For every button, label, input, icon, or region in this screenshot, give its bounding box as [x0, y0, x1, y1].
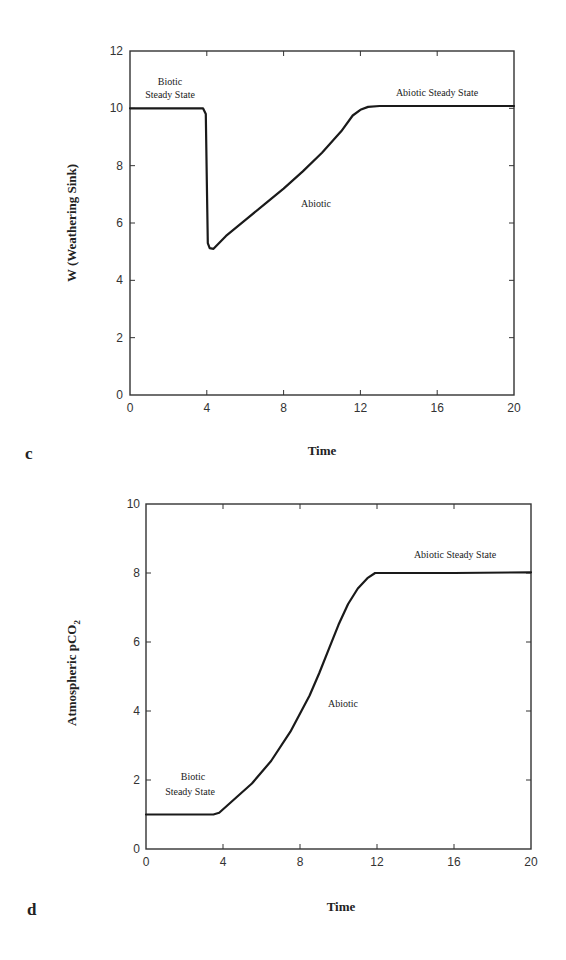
y-tick-label: 4 [116, 273, 123, 287]
y-tick-label: 8 [116, 159, 123, 173]
annotation-abiotic-steady-state: Abiotic Steady State [396, 87, 479, 98]
x-tick-label: 4 [220, 855, 227, 869]
annotation-abiotic: Abiotic [301, 198, 332, 209]
y-axis-title-subscript: 2 [72, 620, 82, 625]
chart-c-svg: 0 4 8 12 16 20 0 2 4 6 8 10 12 Biotic St… [0, 0, 566, 480]
y-tick-label: 4 [133, 704, 140, 718]
annotation-steady-state: Steady State [145, 89, 195, 100]
x-tick-label: 12 [354, 401, 368, 415]
chart-d-svg: 0 4 8 12 16 20 0 2 4 6 8 10 Biotic Stead… [0, 480, 566, 960]
y-tick-label: 0 [116, 388, 123, 402]
panel-c-weathering-sink: 0 4 8 12 16 20 0 2 4 6 8 10 12 Biotic St… [0, 0, 566, 480]
annotation-biotic: Biotic [181, 771, 206, 782]
chart-c-x-tick-labels: 0 4 8 12 16 20 [127, 401, 521, 415]
y-tick-label: 0 [133, 842, 140, 856]
y-tick-label: 8 [133, 566, 140, 580]
x-tick-label: 20 [507, 401, 521, 415]
x-tick-label: 0 [127, 401, 134, 415]
chart-d-x-tick-labels: 0 4 8 12 16 20 [143, 855, 538, 869]
chart-d-y-axis-title: Atmospheric pCO2 [64, 620, 82, 726]
chart-d-y-tick-labels: 0 2 4 6 8 10 [127, 497, 141, 856]
chart-c-ticks [130, 51, 514, 395]
x-tick-label: 0 [143, 855, 150, 869]
x-tick-label: 12 [370, 855, 384, 869]
y-tick-label: 2 [133, 773, 140, 787]
chart-c-x-axis-title: Time [308, 443, 337, 458]
y-tick-label: 2 [116, 331, 123, 345]
y-tick-label: 6 [133, 635, 140, 649]
panel-d-atmospheric-pco2: 0 4 8 12 16 20 0 2 4 6 8 10 Biotic Stead… [0, 480, 566, 960]
annotation-biotic: Biotic [158, 76, 183, 87]
panel-letter-d: d [27, 900, 37, 919]
x-tick-label: 4 [203, 401, 210, 415]
y-tick-label: 10 [127, 497, 141, 511]
y-tick-label: 12 [110, 44, 124, 58]
chart-d-x-axis-title: Time [327, 899, 356, 914]
annotation-abiotic: Abiotic [328, 698, 359, 709]
annotation-abiotic-steady-state: Abiotic Steady State [414, 549, 497, 560]
y-axis-title-main: Atmospheric pCO [64, 625, 79, 726]
chart-c-plot-frame [130, 51, 514, 395]
chart-c-weathering-curve [130, 106, 514, 249]
chart-c-y-tick-labels: 0 2 4 6 8 10 12 [110, 44, 124, 402]
x-tick-label: 8 [280, 401, 287, 415]
x-tick-label: 16 [447, 855, 461, 869]
chart-c-y-axis-title: W (Weathering Sink) [64, 164, 79, 282]
y-tick-label: 10 [110, 101, 124, 115]
x-tick-label: 20 [524, 855, 538, 869]
annotation-steady-state: Steady State [165, 786, 215, 797]
panel-letter-c: c [25, 444, 33, 463]
y-tick-label: 6 [116, 216, 123, 230]
x-tick-label: 8 [297, 855, 304, 869]
x-tick-label: 16 [431, 401, 445, 415]
